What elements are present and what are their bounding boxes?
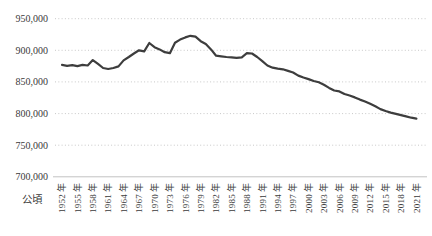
x-axis-tick-label: 2012 年 bbox=[364, 183, 375, 213]
x-axis-tick-label: 1973 年 bbox=[164, 183, 175, 213]
x-axis-tick-label: 1970 年 bbox=[149, 183, 160, 213]
x-axis-tick-label: 1982 年 bbox=[210, 183, 221, 213]
x-axis-tick-label: 1967 年 bbox=[133, 183, 144, 213]
line-chart: 950,000900,000850,000800,000750,000700,0… bbox=[0, 0, 432, 236]
plot-area: 950,000900,000850,000800,000750,000700,0… bbox=[0, 0, 432, 236]
x-axis-tick-label: 1952 年 bbox=[56, 183, 67, 213]
data-line-series bbox=[62, 36, 416, 119]
x-axis-tick-label: 1958 年 bbox=[87, 183, 98, 213]
x-axis-tick-label: 2000 年 bbox=[303, 183, 314, 213]
x-axis-tick-label: 1985 年 bbox=[226, 183, 237, 213]
x-axis-tick-label: 2021 年 bbox=[411, 183, 422, 213]
x-axis-tick-label: 1979 年 bbox=[195, 183, 206, 213]
x-axis-tick-label: 1997 年 bbox=[287, 183, 298, 213]
y-axis-tick-label: 900,000 bbox=[16, 45, 49, 56]
y-axis-tick-label: 700,000 bbox=[16, 171, 49, 182]
x-axis-tick-label: 1976 年 bbox=[180, 183, 191, 213]
x-axis-tick-label: 1994 年 bbox=[272, 183, 283, 213]
y-axis-unit-label: 公頃 bbox=[22, 191, 42, 206]
x-axis-tick-label: 2003 年 bbox=[318, 183, 329, 213]
x-axis-tick-label: 1991 年 bbox=[257, 183, 268, 213]
x-axis-tick-label: 1955 年 bbox=[72, 183, 83, 213]
x-axis-tick-label: 2006 年 bbox=[334, 183, 345, 213]
y-axis-tick-label: 750,000 bbox=[16, 140, 49, 151]
x-axis-tick-label: 2018 年 bbox=[395, 183, 406, 213]
y-axis-tick-label: 950,000 bbox=[16, 13, 49, 24]
x-axis-tick-label: 1961 年 bbox=[102, 183, 113, 213]
x-axis-tick-label: 1988 年 bbox=[241, 183, 252, 213]
y-axis-tick-label: 800,000 bbox=[16, 108, 49, 119]
x-axis-tick-label: 2015 年 bbox=[380, 183, 391, 213]
x-axis-tick-label: 2009 年 bbox=[349, 183, 360, 213]
y-axis-tick-label: 850,000 bbox=[16, 76, 49, 87]
x-axis-tick-label: 1964 年 bbox=[118, 183, 129, 213]
